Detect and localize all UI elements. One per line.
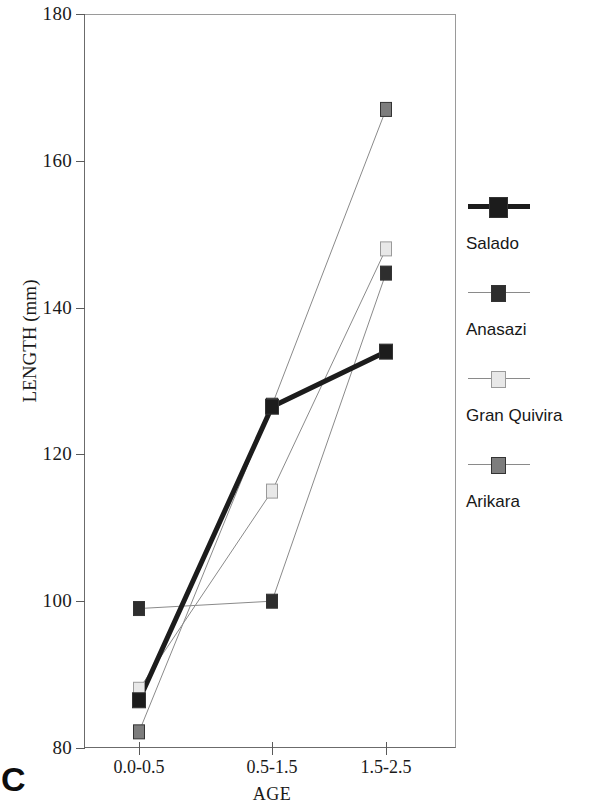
y-axis-tick — [76, 748, 85, 749]
y-axis-tick-label: 180 — [43, 4, 72, 23]
legend-entry-arikara[interactable]: Arikara — [466, 454, 593, 540]
legend-marker-icon — [491, 371, 506, 388]
plot-area — [84, 14, 456, 748]
legend-label: Anasazi — [466, 320, 593, 340]
legend-entry-gran-quivira[interactable]: Gran Quivira — [466, 368, 593, 454]
y-axis-title: LENGTH (mm) — [19, 256, 41, 426]
x-axis-tick — [386, 742, 387, 755]
y-axis-tick — [76, 14, 85, 15]
legend-entry-anasazi[interactable]: Anasazi — [466, 282, 593, 368]
legend-swatch — [468, 368, 546, 390]
panel-letter: C — [1, 762, 26, 796]
x-axis-tick-label: 1.5-2.5 — [326, 757, 446, 778]
legend-swatch — [468, 454, 546, 476]
legend-marker-icon — [489, 197, 508, 218]
legend-entry-salado[interactable]: Salado — [466, 196, 593, 282]
y-axis-tick-label: 140 — [43, 298, 72, 317]
legend-marker-icon — [491, 457, 506, 474]
y-axis-tick-label: 100 — [43, 591, 72, 610]
legend-label: Salado — [466, 234, 593, 254]
x-axis-tick — [139, 742, 140, 755]
y-axis-tick — [76, 454, 85, 455]
x-axis-tick-label: 0.0-0.5 — [79, 757, 199, 778]
legend-label: Gran Quivira — [466, 406, 593, 426]
legend: SaladoAnasaziGran QuiviraArikara — [466, 196, 593, 540]
legend-swatch — [468, 196, 546, 218]
legend-marker-icon — [491, 285, 506, 302]
y-axis-tick — [76, 601, 85, 602]
x-axis-tick-label: 0.5-1.5 — [212, 757, 332, 778]
y-axis-tick-label: 160 — [43, 151, 72, 170]
y-axis-tick-label: 80 — [52, 738, 72, 757]
y-axis-tick — [76, 308, 85, 309]
figure-panel-c: LENGTH (mm) 18016014012010080 0.0-0.50.5… — [0, 0, 593, 806]
y-axis-tick-label: 120 — [43, 444, 72, 463]
y-axis-tick — [76, 161, 85, 162]
x-axis-title: AGE — [212, 784, 332, 805]
legend-label: Arikara — [466, 492, 593, 512]
x-axis-tick — [272, 742, 273, 755]
legend-swatch — [468, 282, 546, 304]
